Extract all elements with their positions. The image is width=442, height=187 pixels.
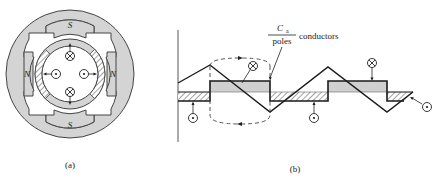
hatched-band-3: [387, 92, 413, 101]
annotation-conductors-per-pole: C a poles conductors: [268, 23, 339, 81]
caption-b: (b): [290, 164, 301, 174]
marker-dot-band-3: [410, 97, 432, 112]
pole-label-right: N: [109, 69, 117, 79]
pole-label-top: S: [68, 20, 73, 30]
annotation-leader: [270, 47, 282, 78]
marker-cross-block-1: [242, 62, 258, 84]
figure: S N N S (a): [0, 0, 442, 187]
svg-text:a: a: [286, 28, 289, 34]
svg-text:conductors: conductors: [299, 31, 339, 41]
hatched-band-1: [178, 92, 210, 101]
marker-cross-block-2: [368, 59, 377, 82]
flux-arrow-top-icon: [238, 56, 243, 60]
caption-a: (a): [65, 160, 75, 170]
flux-arrow-bottom-icon: [237, 122, 242, 126]
panel-a-machine-cross-section: S N N S (a): [6, 10, 134, 170]
hatched-band-2: [270, 92, 328, 101]
marker-dot-band-2: [310, 102, 319, 123]
marker-dot-band-1: [189, 102, 198, 123]
gray-block-1: [210, 81, 270, 92]
svg-text:poles: poles: [273, 36, 292, 46]
pole-label-bottom: S: [68, 120, 73, 130]
pole-label-left: N: [23, 69, 31, 79]
svg-text:C: C: [277, 23, 284, 33]
panel-b-developed-diagram: C a poles conductors (b): [178, 23, 432, 174]
